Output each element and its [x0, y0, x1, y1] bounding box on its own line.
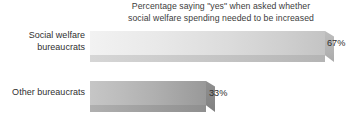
bar-chart: Percentage saying "yes" when asked wheth… [0, 0, 355, 123]
value-label-other-bureaucrats: 33% [209, 88, 227, 99]
chart-title: Percentage saying "yes" when asked wheth… [88, 1, 354, 24]
bar-top-face [90, 81, 206, 105]
category-label-social-welfare-bureaucrats: Social welfare bureaucrats [0, 30, 85, 53]
bar-front-face [90, 105, 206, 112]
bar-top-face [90, 31, 325, 55]
category-label-other-bureaucrats: Other bureaucrats [0, 87, 85, 99]
value-label-social-welfare-bureaucrats: 67% [327, 38, 345, 49]
bar-front-face [90, 55, 325, 62]
